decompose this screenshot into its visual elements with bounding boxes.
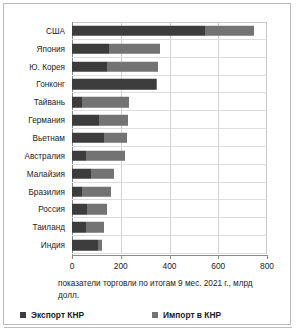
- chart-frame: СШАЯпонияЮ. КореяГонконгТайваньГерманияВ…: [3, 3, 291, 325]
- category-label: Вьетнам: [33, 133, 65, 142]
- bar-segment-export: [72, 151, 86, 162]
- stacked-bar: [72, 97, 129, 108]
- bar-row: Тайвань: [9, 93, 287, 111]
- bar-segment-import: [107, 61, 157, 72]
- legend-swatch-export-icon: [20, 312, 26, 318]
- bar-row: Ю. Корея: [9, 58, 287, 76]
- bar-segment-import: [86, 222, 104, 233]
- stacked-bar: [72, 222, 104, 233]
- category-label: Гонконг: [36, 80, 65, 89]
- category-label: Ю. Корея: [29, 62, 65, 71]
- x-tick-label: 600: [211, 261, 225, 271]
- category-label: Тайвань: [34, 98, 65, 107]
- bar-segment-import: [87, 204, 107, 215]
- stacked-bar: [72, 186, 111, 197]
- bar-segment-import: [109, 44, 161, 55]
- legend-bottom-rule: [4, 327, 292, 328]
- bar-segment-export: [72, 26, 205, 37]
- bar-segment-import: [104, 133, 126, 144]
- category-label: Малайзия: [27, 169, 65, 178]
- bar-segment-export: [72, 133, 104, 144]
- x-tick-mark: [72, 256, 73, 259]
- chart-plot-area: СШАЯпонияЮ. КореяГонконгТайваньГерманияВ…: [9, 16, 287, 258]
- legend-label-import: Импорт в КНР: [163, 310, 221, 320]
- legend-item-export: Экспорт КНР: [20, 310, 84, 320]
- category-label: США: [46, 26, 65, 35]
- x-tick-label: 0: [70, 261, 75, 271]
- bar-row: Малайзия: [9, 165, 287, 183]
- x-tick-label: 200: [114, 261, 128, 271]
- stacked-bar: [72, 133, 127, 144]
- bar-row: Гонконг: [9, 76, 287, 94]
- category-label: Германия: [28, 116, 65, 125]
- bar-row: Австралия: [9, 147, 287, 165]
- category-label: Россия: [38, 205, 65, 214]
- x-tick-label: 800: [260, 261, 274, 271]
- legend-label-export: Экспорт КНР: [31, 310, 84, 320]
- legend-item-import: Импорт в КНР: [152, 310, 221, 320]
- bar-row: Германия: [9, 111, 287, 129]
- category-label: Япония: [37, 44, 65, 53]
- bar-segment-import: [205, 26, 254, 37]
- bar-segment-import: [98, 240, 103, 251]
- bar-segment-export: [72, 204, 87, 215]
- stacked-bar: [72, 26, 254, 37]
- category-label: Австралия: [25, 151, 65, 160]
- stacked-bar: [72, 44, 160, 55]
- x-tick-mark: [121, 256, 122, 259]
- bar-row: Бразилия: [9, 183, 287, 201]
- stacked-bar: [72, 240, 102, 251]
- bar-segment-import: [99, 115, 128, 126]
- bar-row: Вьетнам: [9, 129, 287, 147]
- bar-rows: СШАЯпонияЮ. КореяГонконгТайваньГерманияВ…: [9, 22, 287, 254]
- chart-caption: показатели торговли по итогам 9 мес. 202…: [58, 278, 263, 301]
- bar-segment-import: [82, 97, 130, 108]
- bar-segment-import: [91, 168, 114, 179]
- bar-segment-import: [156, 79, 157, 90]
- category-label: Бразилия: [29, 187, 66, 196]
- stacked-bar: [72, 151, 125, 162]
- legend-swatch-import-icon: [152, 312, 158, 318]
- bar-row: Индия: [9, 236, 287, 254]
- row-separator: [72, 253, 267, 254]
- bar-segment-export: [72, 44, 109, 55]
- bar-segment-export: [72, 97, 82, 108]
- bar-segment-export: [72, 186, 82, 197]
- stacked-bar: [72, 115, 128, 126]
- stacked-bar: [72, 79, 157, 90]
- x-tick-label: 400: [163, 261, 177, 271]
- bar-segment-export: [72, 240, 98, 251]
- bar-row: США: [9, 22, 287, 40]
- bar-row: Россия: [9, 200, 287, 218]
- bar-segment-export: [72, 222, 86, 233]
- stacked-bar: [72, 168, 114, 179]
- bar-segment-import: [82, 186, 111, 197]
- chart-legend: Экспорт КНР Импорт в КНР: [4, 310, 292, 328]
- bar-row: Таиланд: [9, 218, 287, 236]
- bar-row: Япония: [9, 40, 287, 58]
- category-label: Таиланд: [33, 223, 65, 232]
- x-tick-mark: [218, 256, 219, 259]
- x-tick-mark: [170, 256, 171, 259]
- category-label: Индия: [41, 241, 65, 250]
- bar-segment-import: [86, 151, 125, 162]
- bar-segment-export: [72, 79, 156, 90]
- x-axis-ticks: 0200400600800: [72, 256, 267, 272]
- bar-segment-export: [72, 61, 107, 72]
- bar-segment-export: [72, 115, 99, 126]
- bar-segment-export: [72, 168, 91, 179]
- stacked-bar: [72, 61, 158, 72]
- stacked-bar: [72, 204, 107, 215]
- x-tick-mark: [267, 256, 268, 259]
